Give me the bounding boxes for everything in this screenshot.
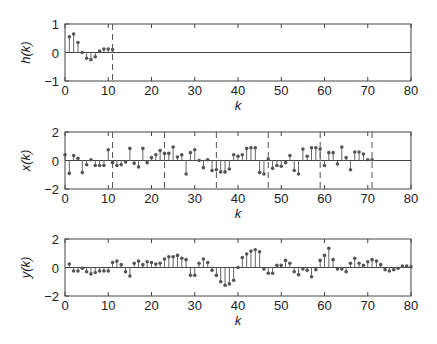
stem-marker <box>68 262 72 266</box>
stem-marker <box>176 155 180 159</box>
x-tick-label: 0 <box>61 83 68 98</box>
stem-marker <box>323 254 327 258</box>
stem-marker <box>63 153 67 157</box>
stem-marker <box>85 163 89 167</box>
x-tick-label: 60 <box>317 83 331 98</box>
stem-marker <box>388 269 392 273</box>
stem-marker <box>340 267 344 271</box>
stem-marker <box>310 275 314 279</box>
x-tick-label: 70 <box>361 298 375 313</box>
stem-marker <box>245 147 249 151</box>
figure: 01020304050607080−101kh(k)01020304050607… <box>0 0 437 344</box>
stem-marker <box>249 146 253 150</box>
stem-marker <box>189 151 193 155</box>
y-tick-label: 0 <box>52 261 59 276</box>
stem-marker <box>158 149 162 153</box>
stem-marker <box>189 274 193 278</box>
stem-marker <box>176 254 180 258</box>
x-tick-label: 80 <box>404 83 418 98</box>
stem-marker <box>81 171 85 175</box>
stem-marker <box>310 146 314 150</box>
stem-marker <box>206 261 210 265</box>
stem-marker <box>236 266 240 270</box>
y-axis-label: x(k) <box>18 150 33 173</box>
stem-marker <box>106 47 110 51</box>
x-tick-label: 70 <box>361 191 375 206</box>
stem-marker <box>271 271 275 275</box>
x-tick-label: 60 <box>317 298 331 313</box>
stem-marker <box>197 159 201 163</box>
stem-marker <box>275 164 279 168</box>
stem-marker <box>111 48 115 52</box>
stem-marker <box>357 150 361 154</box>
stem-marker <box>106 148 110 152</box>
x-axis-label: k <box>235 313 243 328</box>
stem-marker <box>150 156 154 160</box>
stem-marker <box>396 266 400 270</box>
x-tick-label: 80 <box>404 298 418 313</box>
stem-marker <box>314 146 318 150</box>
stem-marker <box>85 56 89 60</box>
stem-marker <box>219 170 223 174</box>
stem-marker <box>119 263 123 267</box>
y-axis-label: h(k) <box>18 41 33 63</box>
stem-marker <box>180 256 184 260</box>
stem-marker <box>167 152 171 156</box>
stem-marker <box>93 271 97 275</box>
stem-marker <box>331 151 335 155</box>
stem-marker <box>336 162 340 166</box>
stem-marker <box>366 158 370 162</box>
x-tick-label: 40 <box>231 191 245 206</box>
stem-marker <box>163 152 167 156</box>
stem-marker <box>106 269 110 273</box>
stem-marker <box>141 263 145 267</box>
stem-marker <box>331 258 335 262</box>
y-tick-label: −2 <box>44 182 59 197</box>
stem-marker <box>353 256 357 260</box>
stem-marker <box>76 269 80 273</box>
stem-marker <box>72 154 76 158</box>
subplot-hk: 01020304050607080−101kh(k) <box>18 17 418 113</box>
stem-marker <box>145 260 149 264</box>
stem-marker <box>362 264 366 268</box>
x-tick-label: 40 <box>231 83 245 98</box>
stem-marker <box>258 250 262 254</box>
stem-marker <box>258 171 262 175</box>
stem-marker <box>254 146 258 150</box>
stem-marker <box>89 58 93 62</box>
stem-marker <box>193 274 197 278</box>
stem-marker <box>202 166 206 170</box>
stem-marker <box>383 268 387 272</box>
stem-marker <box>297 273 301 277</box>
stem-marker <box>145 161 149 165</box>
stem-marker <box>85 270 89 274</box>
stem-marker <box>279 164 283 168</box>
x-tick-label: 0 <box>61 191 68 206</box>
stem-marker <box>301 267 305 271</box>
x-tick-label: 50 <box>274 298 288 313</box>
stem-marker <box>171 145 175 149</box>
stem-marker <box>210 169 214 173</box>
stem-marker <box>292 169 296 173</box>
x-tick-label: 20 <box>144 83 158 98</box>
stem-marker <box>163 257 167 261</box>
stem-marker <box>150 261 154 265</box>
x-tick-label: 0 <box>61 298 68 313</box>
x-tick-label: 50 <box>274 191 288 206</box>
stem-marker <box>349 261 353 265</box>
stem-marker <box>344 156 348 160</box>
stem-marker <box>228 167 232 171</box>
stem-marker <box>284 259 288 263</box>
stem-marker <box>223 170 227 174</box>
x-tick-label: 30 <box>188 191 202 206</box>
y-axis-label: y(k) <box>18 257 33 280</box>
stem-marker <box>76 157 80 161</box>
y-tick-label: 1 <box>52 17 59 32</box>
stem-marker <box>245 252 249 256</box>
stem-marker <box>232 153 236 157</box>
stem-marker <box>184 258 188 262</box>
x-tick-label: 10 <box>101 298 115 313</box>
stem-marker <box>102 47 106 51</box>
stem-marker <box>249 249 253 253</box>
stem-marker <box>284 161 288 165</box>
